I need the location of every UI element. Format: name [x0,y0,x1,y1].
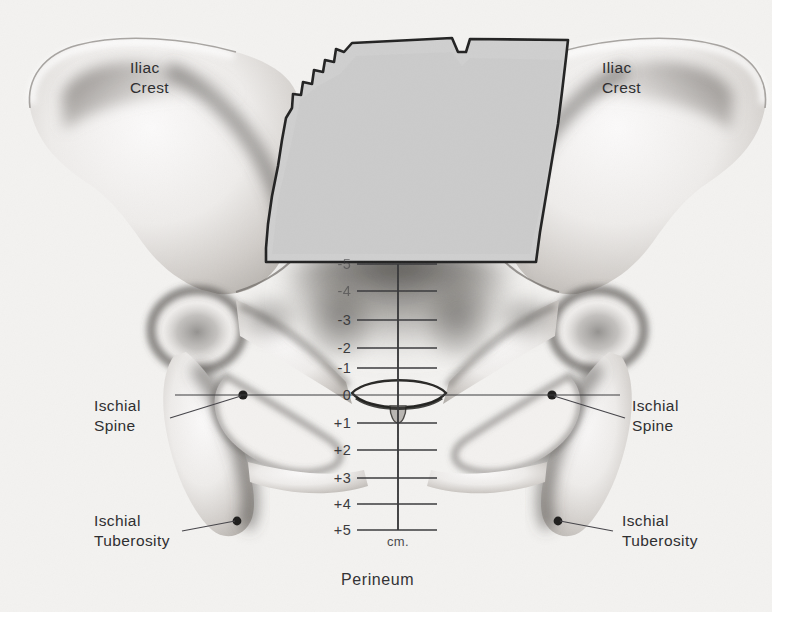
label-ischial-spine-right-line2: Spine [632,416,679,436]
label-iliac-crest-left-line1: Iliac [130,58,169,78]
label-ischial-tuberosity-right: Ischial Tuberosity [622,511,698,551]
label-iliac-crest-right-line1: Iliac [602,58,641,78]
label-ischial-tuberosity-right-line2: Tuberosity [622,531,698,551]
label-ischial-spine-left-line1: Ischial [94,396,141,416]
label-iliac-crest-right: Iliac Crest [602,58,641,98]
label-ischial-tuberosity-left: Ischial Tuberosity [94,511,170,551]
label-ischial-tuberosity-left-line2: Tuberosity [94,531,170,551]
label-ischial-spine-left-line2: Spine [94,416,141,436]
label-iliac-crest-right-line2: Crest [602,78,641,98]
label-ischial-spine-left: Ischial Spine [94,396,141,436]
label-ischial-tuberosity-right-line1: Ischial [622,511,698,531]
label-ischial-tuberosity-left-line1: Ischial [94,511,170,531]
pelvis-station-figure: -5-4-3-2-10+1+2+3+4+5 cm. Iliac Crest Il… [0,0,795,623]
label-perineum: Perineum [341,571,414,589]
label-ischial-spine-right: Ischial Spine [632,396,679,436]
label-ischial-spine-right-line1: Ischial [632,396,679,416]
label-iliac-crest-left: Iliac Crest [130,58,169,98]
label-iliac-crest-left-line2: Crest [130,78,169,98]
